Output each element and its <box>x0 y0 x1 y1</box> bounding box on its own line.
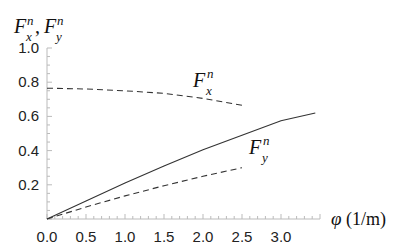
x-tick-label: 0.5 <box>76 228 97 245</box>
series-solid <box>47 113 315 219</box>
y-tick-labels: 0.20.40.60.81.0 <box>18 39 39 193</box>
x-tick-label: 1.5 <box>154 228 175 245</box>
y-tick-label: 0.6 <box>18 107 39 124</box>
x-axis <box>47 214 320 219</box>
y-tick-label: 0.8 <box>18 73 39 90</box>
svg-text:y: y <box>260 150 268 165</box>
plot-series <box>47 88 315 219</box>
svg-text:F: F <box>43 15 57 37</box>
x-tick-label: 0.0 <box>37 228 58 245</box>
y-tick-label: 0.4 <box>18 142 39 159</box>
y-axis <box>47 48 52 219</box>
svg-text:F: F <box>248 136 262 158</box>
svg-text:x: x <box>205 83 212 98</box>
svg-text:n: n <box>207 66 214 81</box>
x-tick-label: 2.5 <box>232 228 253 245</box>
line-chart: F n x , F n y 0.20.40.60.81.0 0.00.51.01… <box>0 0 407 252</box>
svg-text:y: y <box>54 29 62 44</box>
svg-text:F: F <box>13 15 27 37</box>
x-tick-label: 1.0 <box>115 228 136 245</box>
svg-text:φ: φ <box>331 208 342 229</box>
x-tick-label: 2.0 <box>193 228 214 245</box>
svg-text:n: n <box>263 133 270 148</box>
series-f-y-n <box>47 168 242 219</box>
x-tick-labels: 0.00.51.01.52.02.53.0 <box>37 228 292 245</box>
annotation-fx: F n x <box>192 66 214 98</box>
svg-text:n: n <box>57 13 64 28</box>
annotation-fy: F n y <box>248 133 270 165</box>
x-axis-title: φ (1/m) <box>331 208 386 230</box>
svg-text:,: , <box>35 15 40 37</box>
y-tick-label: 0.2 <box>18 176 39 193</box>
svg-text:(1/m): (1/m) <box>346 209 386 230</box>
svg-text:n: n <box>27 13 34 28</box>
series-f-x-n <box>47 88 242 105</box>
svg-text:F: F <box>192 69 206 91</box>
y-tick-label: 1.0 <box>18 39 39 56</box>
x-tick-label: 3.0 <box>271 228 292 245</box>
